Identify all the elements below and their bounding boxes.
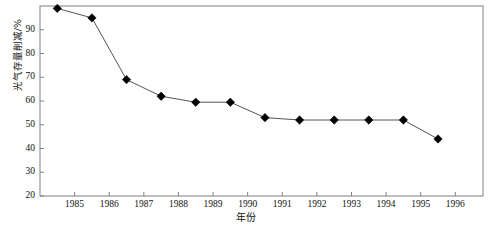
data-markers <box>53 4 442 143</box>
y-tick-label: 60 <box>11 96 35 106</box>
y-tick-label: 30 <box>11 167 35 177</box>
plot-area <box>0 0 491 230</box>
data-line <box>57 8 438 139</box>
axes-frame <box>40 6 483 196</box>
y-tick-label: 90 <box>11 25 35 35</box>
y-tick-label: 20 <box>11 191 35 201</box>
y-tick-label: 80 <box>11 49 35 59</box>
y-axis-ticks <box>40 30 44 196</box>
y-tick-label: 70 <box>11 72 35 82</box>
y-tick-label: 50 <box>11 120 35 130</box>
x-axis-title: 年份 <box>0 209 491 224</box>
x-tick-label: 1996 <box>435 200 475 210</box>
y-tick-label: 40 <box>11 144 35 154</box>
x-axis-ticks <box>75 192 456 196</box>
chart-container: 光气存量削减/% 年份 2030405060708090 19851986198… <box>0 0 491 230</box>
